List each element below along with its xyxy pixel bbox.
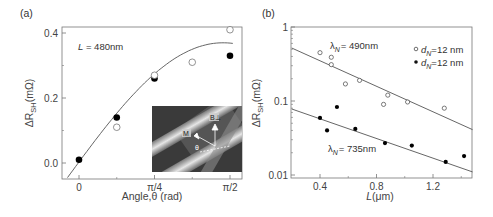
panel-b: (b) 0.010.11 0.40.81.2 L(μm) ΔRSH(mΩ) λN… <box>250 7 473 202</box>
legend-filled-circle-icon <box>414 60 418 64</box>
data-point <box>227 52 234 59</box>
sem-inset-image: B⊥ M θ <box>144 91 256 188</box>
data-point <box>318 51 322 55</box>
x-tick-label: 1.2 <box>426 181 440 192</box>
data-point <box>444 160 448 164</box>
panel-a-y-axis-label: ΔRSH(mΩ) <box>23 79 38 128</box>
panel-b-legend: dN=12 nm dN=12 nm <box>414 44 463 70</box>
data-point <box>343 82 347 86</box>
data-point <box>189 59 196 66</box>
panel-b-y-axis-label: ΔRSH(mΩ) <box>250 79 265 128</box>
data-point <box>386 93 390 97</box>
panel-a: (a) 0.00.20.4 0π/4π/2 Angle,θ (rad) ΔRSH… <box>20 7 256 202</box>
panel-a-label: (a) <box>20 7 33 19</box>
lambda-735-annotation: λN= 735nm <box>328 143 376 156</box>
figure: (a) 0.00.20.4 0π/4π/2 Angle,θ (rad) ΔRSH… <box>0 0 493 217</box>
panel-b-label: (b) <box>262 7 275 19</box>
legend-entry-filled: dN=12 nm <box>421 57 463 70</box>
data-point <box>405 100 409 104</box>
data-point <box>381 102 385 106</box>
y-tick-label: 0.0 <box>44 158 58 169</box>
y-tick-label: 0.01 <box>269 170 289 181</box>
data-point <box>325 128 329 132</box>
y-tick-label: 0.2 <box>44 93 58 104</box>
data-point <box>462 154 466 158</box>
legend-open-circle-icon <box>414 47 418 51</box>
data-point <box>410 143 414 147</box>
y-tick-label: 1 <box>282 22 288 33</box>
data-point <box>151 72 158 79</box>
panel-a-y-ticks: 0.00.20.4 <box>44 28 66 169</box>
y-tick-label: 0.4 <box>44 28 58 39</box>
data-point <box>442 106 446 110</box>
data-point <box>113 114 120 121</box>
data-point <box>329 55 333 59</box>
data-point <box>227 26 234 33</box>
x-tick-label: 0.4 <box>313 181 327 192</box>
panel-b-x-axis-label: L(μm) <box>366 190 394 202</box>
legend-entry-open: dN=12 nm <box>421 44 463 57</box>
lambda-490-annotation: λN= 490nm <box>330 40 378 53</box>
y-tick-label: 0.1 <box>274 96 288 107</box>
x-tick-label: 0 <box>76 182 82 193</box>
m-vector-label: M <box>183 130 189 137</box>
data-point <box>357 78 361 82</box>
data-point <box>113 124 120 131</box>
panel-a-x-axis-label: Angle,θ (rad) <box>122 190 183 202</box>
data-point <box>335 105 339 109</box>
data-point <box>353 127 357 131</box>
x-tick-label: π/2 <box>222 182 238 193</box>
data-point <box>318 116 322 120</box>
data-point <box>329 63 333 67</box>
theta-angle-label: θ <box>195 144 199 151</box>
b-perp-label: B⊥ <box>210 114 221 121</box>
data-point <box>383 141 387 145</box>
panel-a-length-annotation: L = 480nm <box>78 41 123 52</box>
data-point <box>76 156 83 163</box>
